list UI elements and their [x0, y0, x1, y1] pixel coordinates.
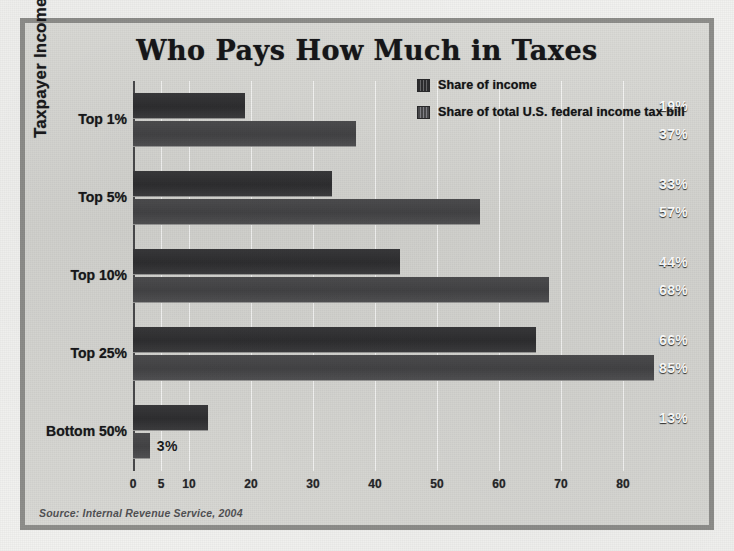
bar-row: 3%: [133, 433, 693, 459]
bar-value-label: 68%: [659, 282, 688, 298]
plot-area: 19%37%33%57%44%68%66%85%13%3%: [133, 81, 693, 471]
bar-value-label: 66%: [659, 332, 688, 348]
x-tick-label-20: 20: [244, 477, 257, 491]
category-label-top-5-: Top 5%: [78, 189, 127, 205]
category-label-bottom-50-: Bottom 50%: [46, 423, 127, 439]
bar-bottom-50--series-2: [133, 433, 150, 459]
bar-top-1--series-1: [133, 93, 245, 119]
y-axis-title: Taxpayer Income Level: [31, 0, 51, 158]
bar-row: 66%: [133, 327, 693, 353]
bar-bottom-50--series-1: [133, 405, 208, 431]
bar-top-5--series-2: [133, 199, 480, 225]
legend-swatch-icon: [417, 79, 430, 92]
bar-value-label: 44%: [659, 254, 688, 270]
bar-top-1--series-2: [133, 121, 356, 147]
bar-value-label: 85%: [659, 360, 688, 376]
x-tick-label-40: 40: [368, 477, 381, 491]
x-tick-label-60: 60: [492, 477, 505, 491]
x-tick-label-80: 80: [616, 477, 629, 491]
bar-top-10--series-2: [133, 277, 549, 303]
source-note: Source: Internal Revenue Service, 2004: [39, 507, 243, 519]
chart-title: Who Pays How Much in Taxes: [25, 35, 709, 66]
chart-frame: Who Pays How Much in Taxes Taxpayer Inco…: [20, 18, 714, 530]
bar-row: 44%: [133, 249, 693, 275]
bar-row: 33%: [133, 171, 693, 197]
legend-item-share-of-income: Share of income: [417, 78, 685, 92]
category-label-top-10-: Top 10%: [70, 267, 127, 283]
x-tick-label-30: 30: [306, 477, 319, 491]
category-label-top-1-: Top 1%: [78, 111, 127, 127]
bar-value-label: 57%: [659, 204, 688, 220]
x-tick-label-5: 5: [158, 477, 165, 491]
chart-page: Who Pays How Much in Taxes Taxpayer Inco…: [0, 0, 734, 551]
x-tick-label-70: 70: [554, 477, 567, 491]
legend-label: Share of total U.S. federal income tax b…: [438, 105, 685, 119]
bar-top-25--series-1: [133, 327, 536, 353]
bar-value-label: 13%: [659, 410, 688, 426]
legend-swatch-icon: [417, 106, 430, 119]
legend-label: Share of income: [438, 78, 537, 92]
legend-item-share-of-tax-bill: Share of total U.S. federal income tax b…: [417, 105, 685, 119]
bar-row: 57%: [133, 199, 693, 225]
chart-legend: Share of income Share of total U.S. fede…: [417, 78, 685, 132]
bar-row: 13%: [133, 405, 693, 431]
bar-row: 85%: [133, 355, 693, 381]
bar-top-10--series-1: [133, 249, 400, 275]
x-tick-label-50: 50: [430, 477, 443, 491]
x-tick-label-10: 10: [182, 477, 195, 491]
bar-row: 68%: [133, 277, 693, 303]
bar-top-5--series-1: [133, 171, 332, 197]
bar-value-label: 3%: [157, 438, 178, 454]
x-axis: 051020304050607080: [133, 471, 693, 497]
x-tick-label-0: 0: [130, 477, 137, 491]
bar-value-label: 33%: [659, 176, 688, 192]
category-label-top-25-: Top 25%: [70, 345, 127, 361]
bar-top-25--series-2: [133, 355, 654, 381]
